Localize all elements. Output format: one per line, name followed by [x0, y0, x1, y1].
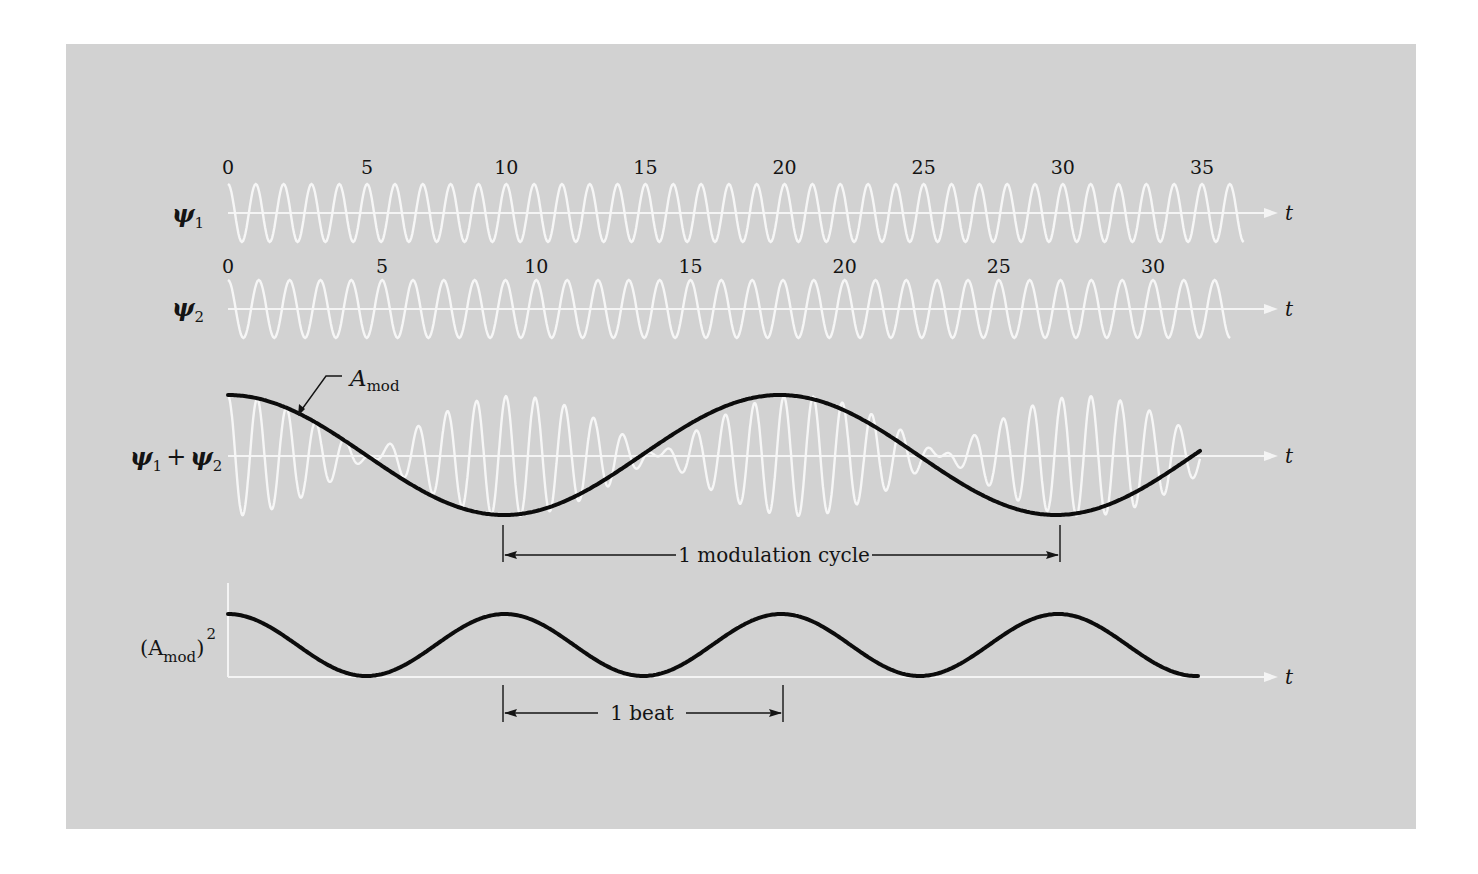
tick-label: 20 [833, 255, 857, 277]
power-axis-label: t [1285, 665, 1294, 689]
tick-label: 15 [678, 255, 702, 277]
tick-label: 30 [1051, 156, 1075, 178]
mod-cycle-label: 1 modulation cycle [678, 543, 870, 567]
psi1-axis-label: t [1285, 201, 1294, 225]
sum-axis-label: t [1285, 444, 1294, 468]
beat-label: 1 beat [610, 701, 674, 725]
tick-label: 0 [222, 255, 234, 277]
tick-label: 5 [361, 156, 373, 178]
tick-label: 5 [376, 255, 388, 277]
tick-label: 25 [987, 255, 1011, 277]
tick-label: 30 [1141, 255, 1165, 277]
psi2-axis-label: t [1285, 297, 1294, 321]
tick-label: 10 [494, 156, 518, 178]
tick-label: 25 [912, 156, 936, 178]
sum-label: ψ1+ψ2 [130, 442, 222, 475]
tick-label: 20 [772, 156, 796, 178]
tick-label: 15 [633, 156, 657, 178]
beats-figure: 05101520253035 ψ1 t 051015202530 ψ2 t ψ1… [0, 0, 1478, 874]
tick-label: 0 [222, 156, 234, 178]
tick-label: 10 [524, 255, 548, 277]
tick-label: 35 [1190, 156, 1214, 178]
